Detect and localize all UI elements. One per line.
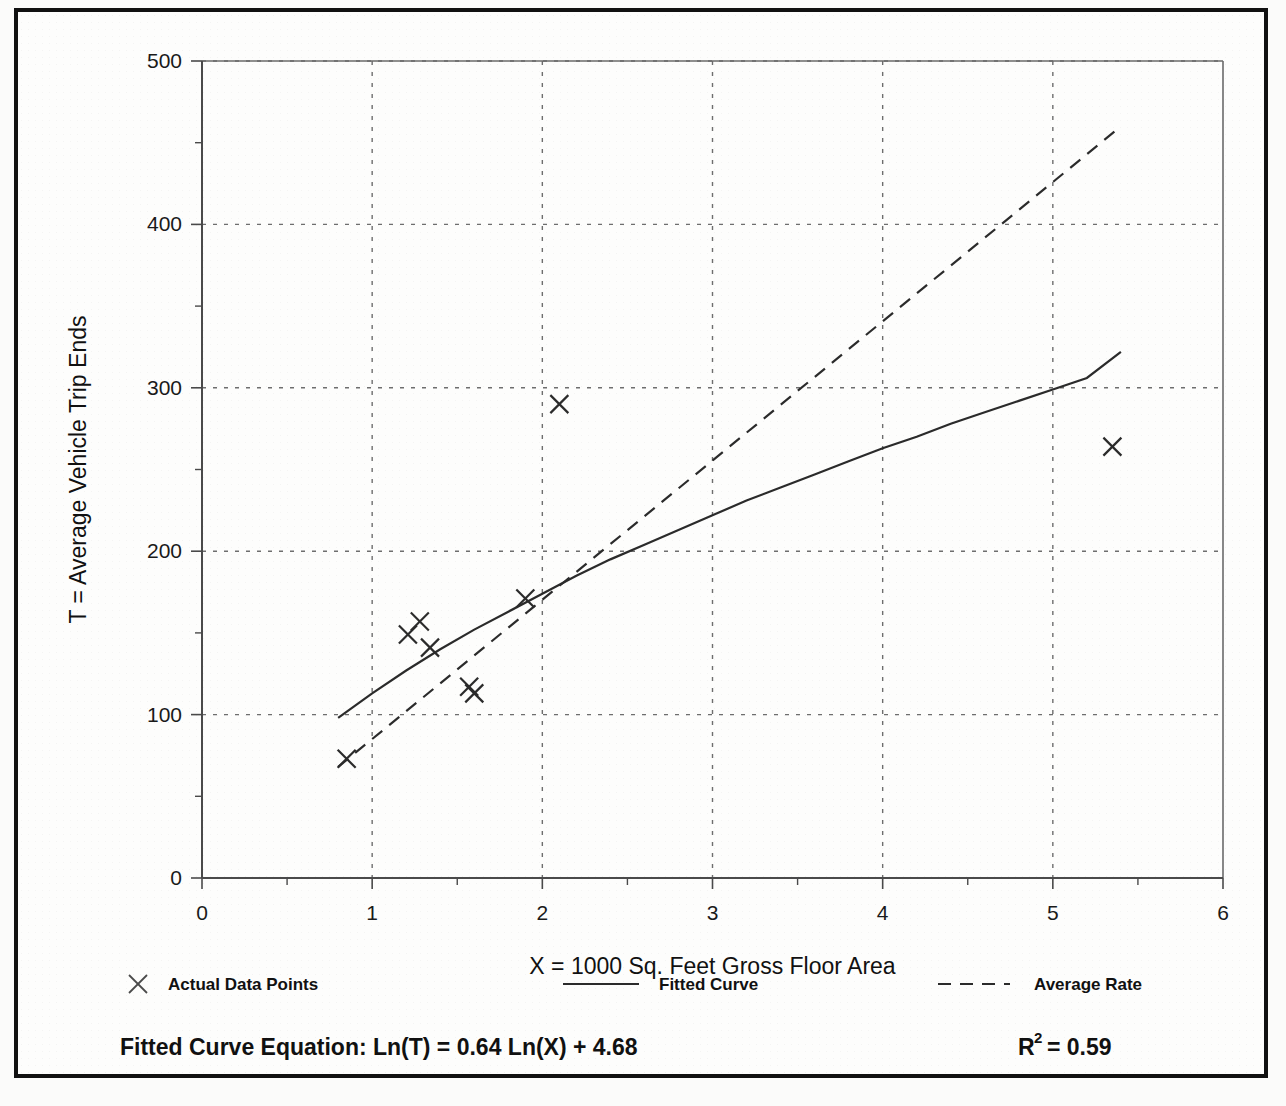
x-axis-tick-label: 2 [536, 901, 548, 924]
x-axis-tick-label: 1 [366, 901, 378, 924]
y-axis-tick-label: 500 [147, 49, 182, 72]
fitted-equation-label: Fitted Curve Equation: Ln(T) = 0.64 Ln(X… [120, 1034, 638, 1060]
legend-label: Actual Data Points [168, 975, 318, 994]
y-axis-tick-label: 400 [147, 212, 182, 235]
r-squared-label: R2= 0.59 [1018, 1029, 1112, 1060]
y-axis-tick-label: 300 [147, 376, 182, 399]
gridlines [202, 61, 1223, 878]
data-series [338, 126, 1122, 767]
legend-item[interactable]: Actual Data Points [129, 975, 318, 994]
trip-generation-chart: 01002003004005000123456 X = 1000 Sq. Fee… [18, 12, 1272, 1082]
average-rate-line [338, 126, 1121, 767]
x-axis-tick-label: 4 [877, 901, 889, 924]
y-axis-tick-label: 100 [147, 703, 182, 726]
legend-label: Average Rate [1034, 975, 1142, 994]
x-axis-tick-label: 5 [1047, 901, 1059, 924]
data-point-marker [421, 639, 439, 657]
axes [191, 61, 1223, 889]
legend-label: Fitted Curve [659, 975, 758, 994]
y-axis-title: T = Average Vehicle Trip Ends [65, 316, 91, 624]
chart-footer: Fitted Curve Equation: Ln(T) = 0.64 Ln(X… [120, 1029, 1112, 1060]
data-point-marker [1103, 438, 1121, 456]
x-axis-tick-label: 0 [196, 901, 208, 924]
fitted-curve-line [338, 352, 1121, 718]
x-axis-tick-label: 3 [707, 901, 719, 924]
data-point-marker [465, 684, 483, 702]
legend-item[interactable]: Average Rate [938, 975, 1142, 994]
y-axis-tick-label: 200 [147, 539, 182, 562]
data-point-marker [411, 612, 429, 630]
r-squared-exponent: 2 [1034, 1029, 1042, 1046]
data-point-marker [550, 395, 568, 413]
y-axis-tick-label: 0 [170, 866, 182, 889]
r-squared-base: R [1018, 1034, 1035, 1060]
x-axis-tick-label: 6 [1217, 901, 1229, 924]
r-squared-value: = 0.59 [1047, 1034, 1112, 1060]
axis-titles: X = 1000 Sq. Feet Gross Floor AreaT = Av… [65, 316, 896, 979]
tick-labels: 01002003004005000123456 [147, 49, 1229, 924]
chart-frame: 01002003004005000123456 X = 1000 Sq. Fee… [14, 8, 1268, 1078]
chart-page: 01002003004005000123456 X = 1000 Sq. Fee… [0, 0, 1286, 1106]
